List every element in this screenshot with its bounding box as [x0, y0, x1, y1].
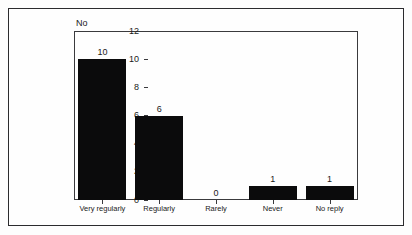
y-tick-label: 12 [129, 25, 139, 37]
bar [249, 186, 297, 200]
bar-value-label: 1 [253, 174, 293, 185]
bar-value-label: 1 [310, 174, 350, 185]
bar [306, 186, 354, 200]
plot-area: 024681012 106011 Very regularlyRegularly… [74, 31, 358, 200]
bar [78, 59, 126, 200]
y-axis-unit-label: No [76, 18, 88, 28]
y-tick-label: 8 [134, 81, 139, 93]
bar-value-label: 0 [196, 188, 236, 199]
bar-value-label: 6 [139, 104, 179, 115]
bar-value-label: 10 [82, 47, 122, 58]
figure: No 024681012 106011 Very regularlyRegula… [0, 0, 412, 235]
x-axis-label: No reply [295, 204, 365, 214]
y-tick-mark [144, 31, 148, 32]
y-tick-mark [144, 59, 148, 60]
y-tick-mark [144, 87, 148, 88]
y-tick-label: 10 [129, 53, 139, 65]
bar [135, 116, 183, 201]
